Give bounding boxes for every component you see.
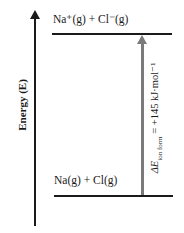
upper-level-label: Na⁺(g) + Cl⁻(g): [53, 12, 128, 26]
lower-energy-level: [54, 195, 173, 197]
y-axis-label: Energy (E): [16, 79, 28, 131]
lower-level-label: Na(g) + Cl(g): [54, 174, 117, 186]
delta-symbol: ΔE: [149, 161, 160, 174]
upper-energy-level: [52, 33, 172, 35]
energy-axis: [34, 16, 36, 226]
delta-subscript: ion form: [156, 136, 164, 160]
transition-arrowhead-icon: [137, 35, 147, 44]
transition-arrow: [141, 42, 144, 195]
axis-arrowhead-icon: [30, 10, 40, 19]
transition-label: ΔEion form = +145 kJ·mol⁻¹: [148, 63, 163, 174]
delta-value: = +145 kJ·mol⁻¹: [149, 63, 160, 134]
